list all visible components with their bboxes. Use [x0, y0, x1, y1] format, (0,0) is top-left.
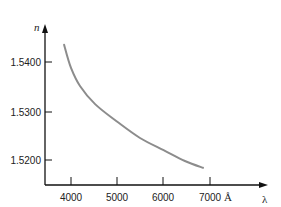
x-tick-label: 5000: [106, 192, 129, 203]
x-unit-label: Å: [224, 191, 232, 203]
x-tick-label: 4000: [60, 192, 83, 203]
y-tick-label: 1.5200: [10, 155, 41, 166]
dispersion-chart: n λ 1.5400 1.5300 1.5200 4000 5000 6000 …: [0, 0, 281, 207]
x-tick-label: 6000: [152, 192, 175, 203]
y-axis-label: n: [34, 21, 40, 33]
y-ticks: 1.5400 1.5300 1.5200: [10, 57, 52, 166]
y-tick-label: 1.5400: [10, 57, 41, 68]
x-ticks: 4000 5000 6000 7000 Å: [60, 177, 232, 203]
x-axis-label: λ: [262, 193, 268, 205]
x-tick-label: 7000: [199, 192, 222, 203]
y-tick-label: 1.5300: [10, 107, 41, 118]
dispersion-curve: [64, 45, 203, 168]
y-axis-arrow-icon: [42, 24, 48, 33]
x-axis-arrow-icon: [259, 182, 268, 188]
